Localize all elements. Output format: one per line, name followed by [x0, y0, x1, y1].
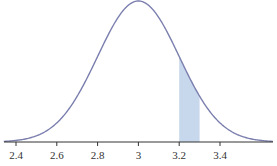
- shaded-region: [179, 56, 199, 142]
- x-axis-ticks: 2.42.62.833.23.4: [9, 142, 227, 161]
- x-tick-label: 3.2: [172, 149, 186, 161]
- x-tick-label: 3: [136, 149, 142, 161]
- x-tick-label: 3.4: [213, 149, 227, 161]
- x-tick-label: 2.6: [50, 149, 64, 161]
- x-tick-label: 2.4: [9, 149, 23, 161]
- normal-distribution-chart: 2.42.62.833.23.4: [0, 0, 277, 166]
- x-tick-label: 2.8: [91, 149, 105, 161]
- bell-curve: [4, 1, 273, 141]
